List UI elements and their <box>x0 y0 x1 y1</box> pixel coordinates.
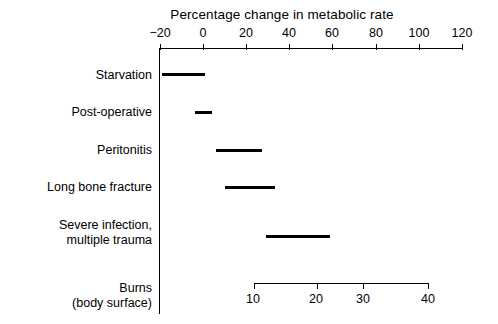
category-label-peritonitis: Peritonitis <box>97 143 152 158</box>
burns-axis-tick-mark <box>254 283 255 289</box>
category-label-burns-line1: Burns <box>119 281 152 296</box>
x-axis-tick-label: 0 <box>183 26 223 40</box>
chart-title: Percentage change in metabolic rate <box>0 7 498 23</box>
x-axis-tick-label: 20 <box>226 26 266 40</box>
x-axis-tick-mark <box>376 44 377 50</box>
x-axis-tick-mark <box>462 44 463 50</box>
x-axis-tick-label: −20 <box>140 26 180 40</box>
category-label-severe-infection-line2: multiple trauma <box>67 233 152 248</box>
x-axis-line <box>160 48 462 49</box>
range-bar-severe-infection <box>266 235 330 238</box>
category-label-starvation: Starvation <box>96 68 152 83</box>
range-bar-long-bone-fracture <box>225 186 275 189</box>
range-bar-starvation <box>162 73 205 76</box>
x-axis-tick-label: 60 <box>312 26 352 40</box>
x-axis-tick-mark <box>332 44 333 50</box>
chart-title-text: Percentage change in metabolic rate <box>170 7 393 22</box>
burns-axis-tick-label: 20 <box>296 292 336 307</box>
category-label-burns-line2: (body surface) <box>72 296 152 311</box>
burns-axis-tick-mark <box>317 283 318 289</box>
range-bar-peritonitis <box>216 149 262 152</box>
metabolic-rate-chart: Percentage change in metabolic rate −20 … <box>0 0 498 324</box>
x-axis-tick-mark <box>203 44 204 50</box>
burns-axis-tick-mark <box>428 283 429 289</box>
x-axis-tick-label: 120 <box>442 26 482 40</box>
x-axis-tick-mark <box>289 44 290 50</box>
x-axis-tick-label: 80 <box>356 26 396 40</box>
burns-axis-line <box>254 283 428 284</box>
burns-axis-tick-label: 30 <box>343 292 383 307</box>
category-label-severe-infection-line1: Severe infection, <box>59 218 152 233</box>
category-label-post-operative: Post-operative <box>71 105 152 120</box>
y-axis-line <box>159 48 160 314</box>
x-axis-tick-label: 100 <box>399 26 439 40</box>
x-axis-tick-mark <box>246 44 247 50</box>
x-axis-tick-mark <box>419 44 420 50</box>
range-bar-post-operative <box>195 111 212 114</box>
category-label-long-bone-fracture: Long bone fracture <box>47 180 152 195</box>
burns-axis-tick-label: 10 <box>233 292 273 307</box>
x-axis-tick-label: 40 <box>269 26 309 40</box>
x-axis-tick-mark <box>160 44 161 50</box>
burns-axis-tick-label: 40 <box>408 292 448 307</box>
burns-axis-tick-mark <box>363 283 364 289</box>
